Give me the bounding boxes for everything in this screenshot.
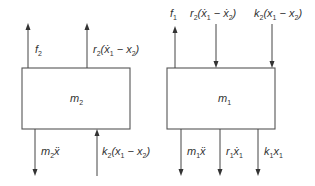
force-k2-spring-m2-arrow: k2(x1 − x2) <box>95 129 151 176</box>
force-k1-spring-arrow: k1x1 <box>256 129 283 176</box>
force-r2-damper-m1-label: r2(ẋ1 − ẋ2) <box>190 7 237 21</box>
force-r2-damper-m2-arrow: r2(ẋ1 − x2) <box>85 23 140 68</box>
arrow-down-icon <box>179 169 184 176</box>
force-k2-spring-m1-arrow: k2(x1 − x2) <box>254 7 302 68</box>
force-k2-spring-m2-label: k2(x1 − x2) <box>102 145 150 159</box>
arrow-up-icon <box>173 26 178 33</box>
force-m2-inertia-label: m2ẍ <box>41 145 60 159</box>
arrow-up-icon <box>85 23 90 30</box>
force-r1-damper-label: r1ẋ1 <box>226 145 243 159</box>
arrow-down-icon <box>214 61 219 68</box>
arrow-up-icon <box>26 23 31 30</box>
force-f1-label: f1 <box>170 7 177 21</box>
force-m1-inertia-arrow: m1ẍ <box>179 129 207 176</box>
arrow-down-icon <box>33 169 38 176</box>
force-r2-damper-m1-arrow: r2(ẋ1 − ẋ2) <box>190 7 237 68</box>
force-f2-label: f2 <box>35 43 42 57</box>
arrow-down-icon <box>218 169 223 176</box>
mass-m2-body: m2 <box>22 68 130 129</box>
arrow-down-icon <box>270 61 275 68</box>
force-m1-inertia-label: m1ẍ <box>187 145 206 159</box>
force-k1-spring-label: k1x1 <box>264 145 283 159</box>
force-f2-arrow: f2 <box>26 23 43 68</box>
force-f1-arrow: f1 <box>170 7 178 68</box>
arrow-up-icon <box>95 129 100 136</box>
mass-m1-body: m1 <box>167 68 275 129</box>
free-body-diagram: m2 f2 r2(ẋ1 − x2) m2ẍ k2(x1 − x2) m1 f1 <box>0 0 315 186</box>
force-r2-damper-m2-label: r2(ẋ1 − x2) <box>93 43 140 57</box>
arrow-down-icon <box>256 169 261 176</box>
force-r1-damper-arrow: r1ẋ1 <box>218 129 244 176</box>
force-k2-spring-m1-label: k2(x1 − x2) <box>254 7 302 21</box>
force-m2-inertia-arrow: m2ẍ <box>33 129 61 176</box>
